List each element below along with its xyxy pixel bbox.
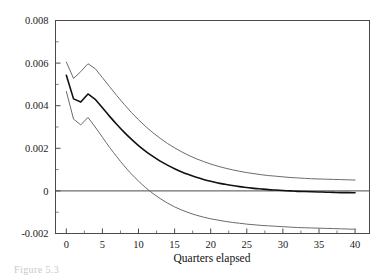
figure-caption-fragment: Figure 5.3	[14, 264, 59, 275]
y-tick-label: 0	[43, 186, 48, 197]
y-tick-label: 0.008	[25, 15, 49, 26]
x-tick-label: 35	[314, 239, 325, 250]
y-tick-label: 0.006	[25, 58, 49, 69]
x-tick-label: 40	[350, 239, 361, 250]
y-tick-label: -0.002	[21, 228, 48, 239]
x-tick-label: 10	[133, 239, 144, 250]
x-tick-label: 0	[64, 239, 69, 250]
x-tick-label: 15	[169, 239, 180, 250]
y-tick-label: 0.002	[25, 143, 49, 154]
x-tick-label: 20	[205, 239, 216, 250]
impulse-response-chart: -0.00200.0020.0040.0060.008 051015202530…	[0, 0, 381, 279]
figure-container: -0.00200.0020.0040.0060.008 051015202530…	[0, 0, 381, 279]
x-tick-label: 25	[242, 239, 253, 250]
x-axis-title: Quarters elapsed	[174, 252, 251, 265]
y-tick-label: 0.004	[25, 100, 49, 111]
x-tick-label: 30	[278, 239, 289, 250]
x-tick-label: 5	[100, 239, 105, 250]
